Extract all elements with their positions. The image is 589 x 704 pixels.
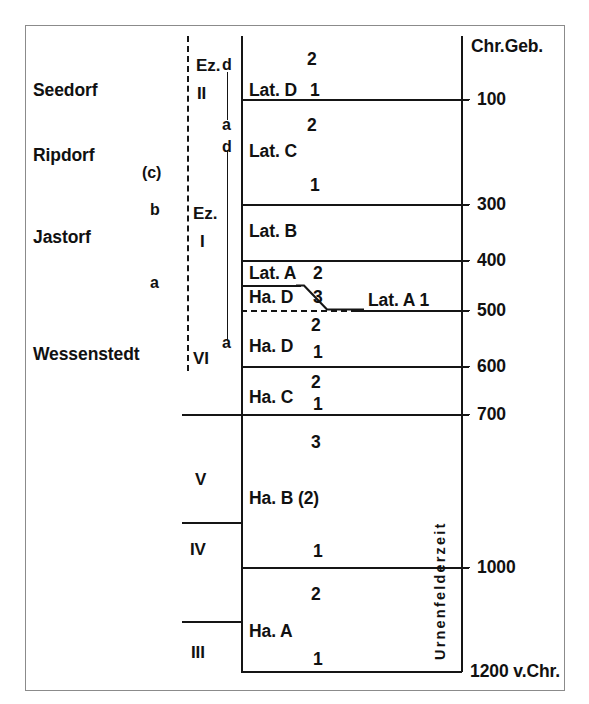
tick-600 xyxy=(454,366,470,367)
phase-label-ha-d: Ha. D xyxy=(249,338,293,356)
phase-label-ha-d3: Ha. D xyxy=(249,289,293,307)
site-label-ripdorf: Ripdorf xyxy=(33,147,95,165)
phase-number-lat-d-1: 1 xyxy=(310,82,320,100)
phase-label-ha-c: Ha. C xyxy=(249,389,293,407)
site-label-wessenstedt: Wessenstedt xyxy=(33,346,140,364)
scale-label-chr-geb: Chr.Geb. xyxy=(471,38,543,56)
scale-label-400: 400 xyxy=(477,252,506,270)
bracket-line-upper xyxy=(227,72,228,120)
phase-number-ha-c-2: 2 xyxy=(311,374,321,392)
phase-number-ha-b-3: 3 xyxy=(311,434,321,452)
bracket-letter-a-upper: a xyxy=(222,117,231,133)
phase-number-lat-c-2: 2 xyxy=(307,117,317,135)
subphase-label-a: a xyxy=(150,275,159,291)
scale-label-300: 300 xyxy=(477,196,506,214)
phase-number-ha-d-1: 1 xyxy=(313,344,323,362)
site-label-jastorf: Jastorf xyxy=(33,229,91,247)
phase-label-ha-a: Ha. A xyxy=(249,623,293,641)
period-numeral-iv: IV xyxy=(190,541,206,558)
column-bottom-border xyxy=(241,671,462,673)
period-numeral-vi: VI xyxy=(193,350,209,367)
phase-number-lat-c-1: 1 xyxy=(310,177,320,195)
subphase-label-c: (c) xyxy=(142,165,161,181)
period-numeral-v: V xyxy=(195,471,206,488)
phase-number-lat-a-2: 2 xyxy=(313,265,323,283)
subphase-label-b: b xyxy=(150,202,160,218)
chronology-chart: Seedorf Ripdorf Jastorf Wessenstedt (c) … xyxy=(0,0,589,704)
bracket-letter-a-lower: a xyxy=(222,335,231,351)
boundary-line-300 xyxy=(241,204,469,206)
scale-label-1200: 1200 v.Chr. xyxy=(470,663,560,681)
boundary-line-500-right xyxy=(355,310,469,312)
period-numeral-iii: III xyxy=(191,644,205,661)
phase-number-ha-d-3: 3 xyxy=(313,289,323,307)
scale-label-1000: 1000 xyxy=(477,559,516,577)
tick-500 xyxy=(454,310,470,311)
bracket-line-lower xyxy=(227,150,228,340)
phase-label-lat-b: Lat. B xyxy=(249,223,297,241)
phase-label-ha-b: Ha. B (2) xyxy=(249,490,319,508)
phase-label-lat-c: Lat. C xyxy=(249,143,297,161)
phase-number-ha-d-2: 2 xyxy=(311,317,321,335)
urnenfelderzeit-label: Urnenfelderzeit xyxy=(432,430,448,660)
scale-axis-line xyxy=(461,36,463,672)
period-numeral-i: I xyxy=(200,233,205,250)
period-label-ez1: Ez. xyxy=(193,205,217,222)
phase-label-lat-d: Lat. D xyxy=(249,82,297,100)
tick-1000 xyxy=(454,567,470,568)
bracket-letter-d-lower: d xyxy=(222,139,232,155)
scale-label-700: 700 xyxy=(477,406,506,424)
phase-number-ha-b-1: 1 xyxy=(313,543,323,561)
diagonal-step-line xyxy=(295,284,365,318)
boundary-line-ha-a xyxy=(182,621,242,623)
site-label-seedorf: Seedorf xyxy=(33,82,97,100)
period-label-ez2: Ez. xyxy=(196,57,220,74)
bracket-letter-d-upper: d xyxy=(222,57,232,73)
scale-label-600: 600 xyxy=(477,358,506,376)
scale-label-100: 100 xyxy=(477,91,506,109)
tick-300 xyxy=(454,204,470,205)
dashed-divider-line xyxy=(187,36,189,371)
phase-number-lat-d-2: 2 xyxy=(307,51,317,69)
column-left-border xyxy=(241,36,243,672)
phase-label-lat-a1: Lat. A 1 xyxy=(368,292,429,310)
boundary-line-700 xyxy=(182,414,469,416)
boundary-line-ha-b1 xyxy=(182,522,242,524)
boundary-line-600 xyxy=(241,366,469,368)
phase-number-ha-a-1: 1 xyxy=(313,651,323,669)
scale-label-500: 500 xyxy=(477,302,506,320)
tick-700 xyxy=(454,414,470,415)
tick-400 xyxy=(454,260,470,261)
phase-label-lat-a: Lat. A xyxy=(249,265,296,283)
phase-number-ha-c-1: 1 xyxy=(313,396,323,414)
period-numeral-ii: II xyxy=(197,85,206,102)
phase-number-ha-a-2: 2 xyxy=(311,586,321,604)
tick-100 xyxy=(454,99,470,100)
boundary-line-400 xyxy=(241,260,469,262)
